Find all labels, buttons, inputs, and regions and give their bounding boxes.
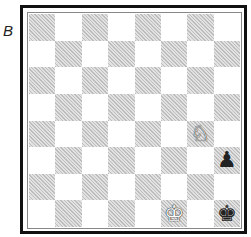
square-e6[interactable] xyxy=(135,67,161,94)
square-h4[interactable] xyxy=(214,121,240,148)
chessboard-frame: ♘♟♔♚ xyxy=(20,5,247,234)
square-d8[interactable] xyxy=(108,14,134,41)
square-b7[interactable] xyxy=(55,41,81,68)
square-h1[interactable]: ♚ xyxy=(214,200,240,227)
square-c4[interactable] xyxy=(82,121,108,148)
square-e4[interactable] xyxy=(135,121,161,148)
square-d6[interactable] xyxy=(108,67,134,94)
square-g6[interactable] xyxy=(187,67,213,94)
square-a6[interactable] xyxy=(29,67,55,94)
square-g1[interactable] xyxy=(187,200,213,227)
square-h3[interactable]: ♟ xyxy=(214,147,240,174)
square-f2[interactable] xyxy=(161,174,187,201)
square-g7[interactable] xyxy=(187,41,213,68)
square-f3[interactable] xyxy=(161,147,187,174)
square-d1[interactable] xyxy=(108,200,134,227)
square-b8[interactable] xyxy=(55,14,81,41)
square-a4[interactable] xyxy=(29,121,55,148)
square-c7[interactable] xyxy=(82,41,108,68)
chessboard-inner-border: ♘♟♔♚ xyxy=(27,12,242,229)
white-knight-icon[interactable]: ♘ xyxy=(191,123,211,145)
square-d4[interactable] xyxy=(108,121,134,148)
square-a7[interactable] xyxy=(29,41,55,68)
square-h6[interactable] xyxy=(214,67,240,94)
black-king-icon[interactable]: ♚ xyxy=(217,203,237,225)
square-g8[interactable] xyxy=(187,14,213,41)
square-g5[interactable] xyxy=(187,94,213,121)
square-d3[interactable] xyxy=(108,147,134,174)
square-b5[interactable] xyxy=(55,94,81,121)
square-c6[interactable] xyxy=(82,67,108,94)
square-a3[interactable] xyxy=(29,147,55,174)
white-king-icon[interactable]: ♔ xyxy=(164,203,184,225)
black-pawn-icon[interactable]: ♟ xyxy=(217,149,237,171)
square-e5[interactable] xyxy=(135,94,161,121)
square-h5[interactable] xyxy=(214,94,240,121)
square-f1[interactable]: ♔ xyxy=(161,200,187,227)
square-e3[interactable] xyxy=(135,147,161,174)
square-g4[interactable]: ♘ xyxy=(187,121,213,148)
square-f6[interactable] xyxy=(161,67,187,94)
square-d7[interactable] xyxy=(108,41,134,68)
square-b2[interactable] xyxy=(55,174,81,201)
square-c2[interactable] xyxy=(82,174,108,201)
square-b4[interactable] xyxy=(55,121,81,148)
square-b3[interactable] xyxy=(55,147,81,174)
square-f5[interactable] xyxy=(161,94,187,121)
square-f7[interactable] xyxy=(161,41,187,68)
square-e1[interactable] xyxy=(135,200,161,227)
square-c3[interactable] xyxy=(82,147,108,174)
square-e2[interactable] xyxy=(135,174,161,201)
square-a5[interactable] xyxy=(29,94,55,121)
square-f8[interactable] xyxy=(161,14,187,41)
square-a2[interactable] xyxy=(29,174,55,201)
square-a8[interactable] xyxy=(29,14,55,41)
square-f4[interactable] xyxy=(161,121,187,148)
square-b1[interactable] xyxy=(55,200,81,227)
square-h2[interactable] xyxy=(214,174,240,201)
square-a1[interactable] xyxy=(29,200,55,227)
square-h8[interactable] xyxy=(214,14,240,41)
square-c5[interactable] xyxy=(82,94,108,121)
square-g3[interactable] xyxy=(187,147,213,174)
square-c1[interactable] xyxy=(82,200,108,227)
square-b6[interactable] xyxy=(55,67,81,94)
chessboard[interactable]: ♘♟♔♚ xyxy=(29,14,240,227)
square-h7[interactable] xyxy=(214,41,240,68)
square-e8[interactable] xyxy=(135,14,161,41)
diagram-label: B xyxy=(3,22,13,39)
square-d2[interactable] xyxy=(108,174,134,201)
square-g2[interactable] xyxy=(187,174,213,201)
square-d5[interactable] xyxy=(108,94,134,121)
square-c8[interactable] xyxy=(82,14,108,41)
square-e7[interactable] xyxy=(135,41,161,68)
